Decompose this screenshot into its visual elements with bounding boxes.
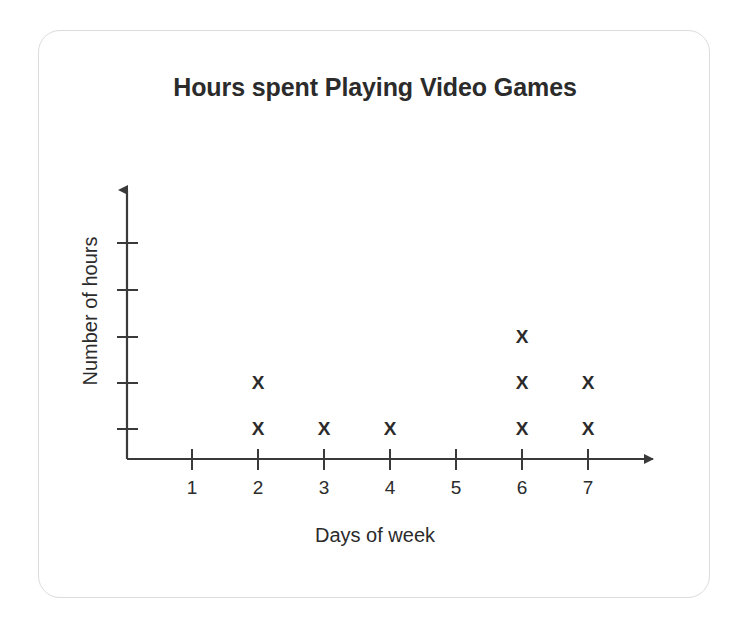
x-tick-label-4: 4 [375, 477, 405, 499]
data-mark-day-6-level-1: X [509, 416, 535, 442]
data-mark-day-6-level-2: X [509, 370, 535, 396]
x-axis-title: Days of week [0, 524, 750, 547]
x-tick-label-5: 5 [441, 477, 471, 499]
data-mark-day-2-level-2: X [245, 370, 271, 396]
data-mark-day-6-level-3: X [509, 324, 535, 350]
data-mark-day-3-level-1: X [311, 416, 337, 442]
chart-screenshot: Hours spent Playing Video Games [0, 0, 750, 626]
data-mark-day-4-level-1: X [377, 416, 403, 442]
x-tick-label-1: 1 [177, 477, 207, 499]
dot-plot: 1 2 3 4 5 6 7 XXXXXXXXX Number of hours … [0, 0, 750, 626]
x-tick-label-7: 7 [573, 477, 603, 499]
data-mark-day-7-level-2: X [575, 370, 601, 396]
data-mark-day-7-level-1: X [575, 416, 601, 442]
x-tick-label-2: 2 [243, 477, 273, 499]
y-axis-title: Number of hours [79, 237, 102, 386]
x-tick-label-3: 3 [309, 477, 339, 499]
data-mark-day-2-level-1: X [245, 416, 271, 442]
x-tick-label-6: 6 [507, 477, 537, 499]
